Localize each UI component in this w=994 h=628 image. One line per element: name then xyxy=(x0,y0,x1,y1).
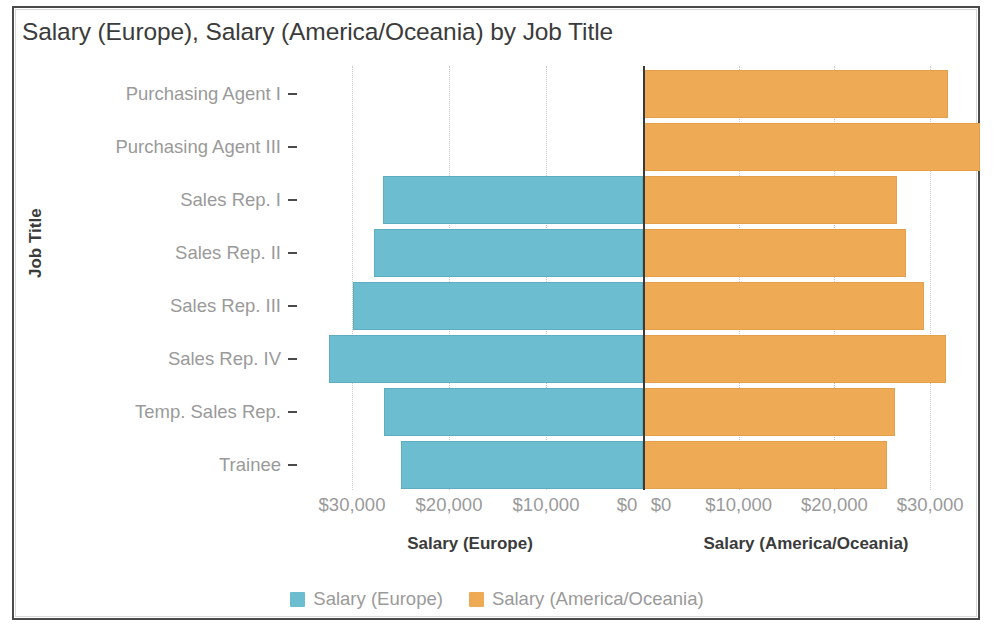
x-axis-tick-label-europe: $0 xyxy=(617,494,638,516)
bar-row xyxy=(296,441,984,489)
bar-salary-america-oceania[interactable] xyxy=(643,123,980,171)
bar-row xyxy=(296,282,984,330)
legend-item[interactable]: Salary (America/Oceania) xyxy=(469,588,704,610)
bar-salary-america-oceania[interactable] xyxy=(643,229,906,277)
y-axis-tick-label: Trainee xyxy=(219,454,281,476)
x-axis-tick-label-europe: $30,000 xyxy=(319,494,386,516)
legend-label: Salary (America/Oceania) xyxy=(492,588,704,610)
bar-salary-america-oceania[interactable] xyxy=(643,388,895,436)
x-axis-title-europe: Salary (Europe) xyxy=(407,534,533,554)
x-axis-tick-label-america-oceania: $30,000 xyxy=(897,494,964,516)
plot-area xyxy=(296,66,984,490)
y-axis-tick-label: Purchasing Agent III xyxy=(115,136,281,158)
y-axis-tick-label: Sales Rep. III xyxy=(170,295,281,317)
bar-salary-europe[interactable] xyxy=(383,176,643,224)
bar-salary-europe[interactable] xyxy=(353,282,643,330)
y-axis-title: Job Title xyxy=(26,208,46,278)
x-axis-tick-label-america-oceania: $20,000 xyxy=(801,494,868,516)
bar-salary-europe[interactable] xyxy=(384,388,643,436)
legend-swatch-icon xyxy=(290,592,305,607)
zero-axis-line xyxy=(643,66,645,490)
bar-row xyxy=(296,176,984,224)
bar-salary-america-oceania[interactable] xyxy=(643,441,887,489)
legend-item[interactable]: Salary (Europe) xyxy=(290,588,443,610)
y-axis-tick-label: Sales Rep. I xyxy=(180,189,281,211)
bar-salary-america-oceania[interactable] xyxy=(643,282,924,330)
bar-row xyxy=(296,123,984,171)
y-axis-tick-label: Sales Rep. IV xyxy=(168,348,281,370)
bar-salary-europe[interactable] xyxy=(329,335,643,383)
chart-legend: Salary (Europe)Salary (America/Oceania) xyxy=(0,588,994,610)
x-axis-tick-label-america-oceania: $10,000 xyxy=(705,494,772,516)
x-axis-tick-label-europe: $20,000 xyxy=(416,494,483,516)
x-axis-tick-label-america-oceania: $0 xyxy=(651,494,672,516)
bar-salary-europe[interactable] xyxy=(374,229,643,277)
x-axis-title-america-oceania: Salary (America/Oceania) xyxy=(703,534,908,554)
bar-salary-europe[interactable] xyxy=(401,441,643,489)
bar-row xyxy=(296,335,984,383)
bar-salary-america-oceania[interactable] xyxy=(643,335,946,383)
legend-label: Salary (Europe) xyxy=(313,588,443,610)
chart-title: Salary (Europe), Salary (America/Oceania… xyxy=(22,18,613,46)
chart-container: Salary (Europe), Salary (America/Oceania… xyxy=(0,0,994,628)
y-axis-tick-label: Purchasing Agent I xyxy=(126,83,281,105)
bar-salary-america-oceania[interactable] xyxy=(643,70,948,118)
y-axis-tick-label: Sales Rep. II xyxy=(175,242,281,264)
bar-row xyxy=(296,229,984,277)
legend-swatch-icon xyxy=(469,592,484,607)
bar-row xyxy=(296,70,984,118)
bar-row xyxy=(296,388,984,436)
x-axis-tick-label-europe: $10,000 xyxy=(513,494,580,516)
bar-salary-america-oceania[interactable] xyxy=(643,176,897,224)
y-axis-tick-label: Temp. Sales Rep. xyxy=(135,401,281,423)
